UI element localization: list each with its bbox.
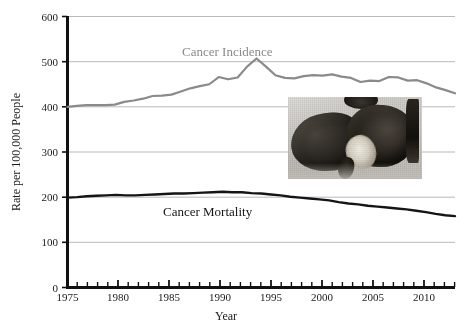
cancer-trends-figure: 600 500 400 300 200 100 0 [0, 0, 475, 329]
mortality-series-label: Cancer Mortality [163, 204, 253, 219]
y-tick-label-300: 300 [42, 146, 59, 158]
y-tick-label-500: 500 [42, 56, 59, 68]
y-tick-label-100: 100 [42, 236, 59, 248]
y-tick-label-400: 400 [42, 101, 59, 113]
x-tick-label-1990: 1990 [209, 291, 232, 303]
x-tick-label-1995: 1995 [260, 291, 283, 303]
x-tick-label-2010: 2010 [413, 291, 436, 303]
x-tick-label-2000: 2000 [311, 291, 334, 303]
x-tick-label-1975: 1975 [57, 291, 80, 303]
incidence-series-label: Cancer Incidence [182, 44, 273, 59]
pathology-specimen-photo [288, 97, 422, 179]
x-tick-label-1980: 1980 [107, 291, 130, 303]
y-tick-label-200: 200 [42, 191, 59, 203]
y-axis-title: Rate per 100,000 People [9, 93, 23, 211]
x-tick-label-1985: 1985 [158, 291, 181, 303]
photo-grain-overlay [288, 97, 422, 179]
x-tick-label-2005: 2005 [362, 291, 385, 303]
x-axis-title: Year [215, 309, 237, 323]
y-tick-label-600: 600 [42, 11, 59, 23]
